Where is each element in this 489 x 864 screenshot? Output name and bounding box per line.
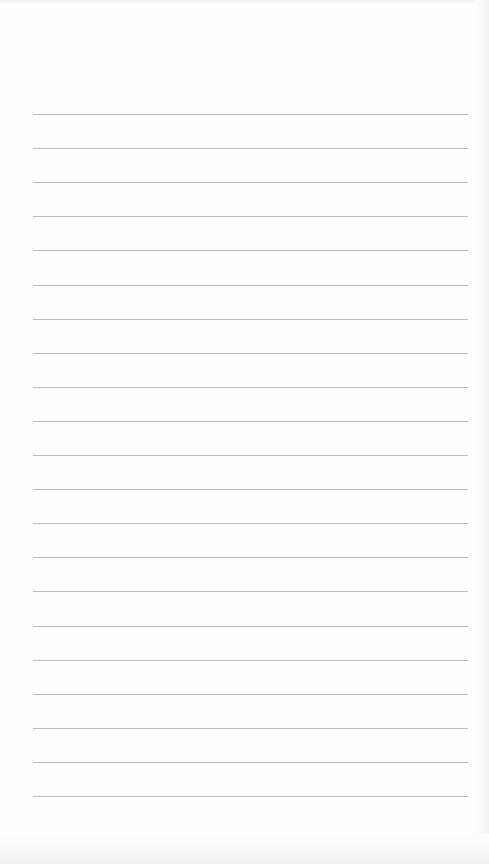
ruled-line <box>33 421 468 422</box>
ruled-line <box>33 728 468 729</box>
ruled-line <box>33 489 468 490</box>
ruled-line <box>33 114 468 115</box>
ruled-line <box>33 591 468 592</box>
ruled-line <box>33 626 468 627</box>
paper-top-edge-shadow <box>0 0 489 4</box>
ruled-line <box>33 660 468 661</box>
ruled-line <box>33 762 468 763</box>
ruled-line <box>33 557 468 558</box>
ruled-line <box>33 387 468 388</box>
ruled-line <box>33 523 468 524</box>
lined-paper <box>0 0 489 864</box>
paper-right-edge-shadow <box>475 0 489 864</box>
ruled-line <box>33 285 468 286</box>
ruled-line <box>33 250 468 251</box>
ruled-line <box>33 216 468 217</box>
paper-bottom-edge-shadow <box>0 834 489 864</box>
ruled-line <box>33 353 468 354</box>
ruled-line <box>33 455 468 456</box>
ruled-line <box>33 148 468 149</box>
ruled-line <box>33 182 468 183</box>
ruled-line <box>33 796 468 797</box>
ruled-line <box>33 319 468 320</box>
ruled-line <box>33 694 468 695</box>
